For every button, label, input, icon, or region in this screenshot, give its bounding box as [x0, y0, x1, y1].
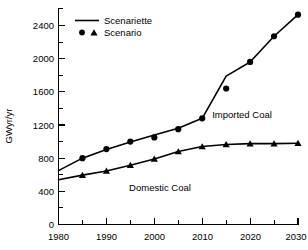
x-tick-label-2030: 2030 — [285, 231, 306, 242]
y-axis-major-ticks — [59, 26, 66, 225]
x-axis-minor-ticks — [83, 220, 275, 225]
coal-scenario-chart: 0 400 800 1200 1600 2000 2400 GWyr/yr — [0, 0, 308, 250]
series-domestic-coal — [59, 140, 302, 180]
legend-triangle-marker-icon — [90, 29, 97, 35]
legend-circle-marker-icon — [79, 30, 85, 36]
y-tick-label-0: 0 — [49, 219, 54, 230]
y-tick-label-2400: 2400 — [33, 20, 54, 31]
y-tick-label-1200: 1200 — [33, 120, 54, 131]
x-tick-label-1980: 1980 — [48, 231, 69, 242]
data-point-circle — [247, 59, 253, 65]
data-point-circle — [127, 138, 133, 144]
chart-legend: Scenariette Scenario — [75, 15, 152, 38]
data-point-circle — [199, 115, 205, 121]
data-point-circle — [175, 126, 181, 132]
y-tick-label-1600: 1600 — [33, 86, 54, 97]
annotation-domestic-coal: Domestic Coal — [129, 182, 191, 193]
y-axis-minor-ticks — [59, 9, 64, 208]
x-tick-label-2010: 2010 — [192, 231, 213, 242]
data-point-circle — [79, 155, 85, 161]
y-tick-label-400: 400 — [38, 186, 54, 197]
series-line-imported-coal — [59, 15, 299, 171]
x-tick-label-1990: 1990 — [96, 231, 117, 242]
x-tick-label-2020: 2020 — [240, 231, 261, 242]
y-tick-label-800: 800 — [38, 153, 54, 164]
x-axis-tick-labels: 1980 1990 2000 2010 2020 2030 — [48, 231, 307, 242]
annotation-imported-coal: Imported Coal — [212, 109, 272, 120]
legend-label-scenariette: Scenariette — [104, 15, 152, 26]
data-point-circle — [103, 146, 109, 152]
x-tick-label-2000: 2000 — [144, 231, 165, 242]
y-axis-title: GWyr/yr — [3, 109, 14, 144]
data-point-circle — [295, 12, 301, 18]
legend-label-scenario: Scenario — [104, 27, 142, 38]
chart-container: 0 400 800 1200 1600 2000 2400 GWyr/yr — [0, 0, 308, 250]
series-layer — [59, 12, 302, 180]
y-tick-label-2000: 2000 — [33, 53, 54, 64]
data-point-circle — [271, 33, 277, 39]
data-point-circle — [151, 134, 157, 140]
y-axis-tick-labels: 0 400 800 1200 1600 2000 2400 — [33, 20, 54, 230]
data-point-circle — [223, 85, 229, 91]
